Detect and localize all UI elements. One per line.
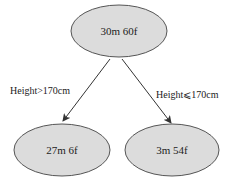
right-child-node: 3m 54f (125, 124, 219, 176)
root-node: 30m 60f (71, 5, 167, 57)
left-child-node: 27m 6f (14, 124, 110, 176)
right-edge-label: Height⩽170cm (156, 89, 219, 100)
decision-tree-diagram: 30m 60f 27m 6f 3m 54f Height>170cm Heigh… (0, 0, 232, 184)
root-node-label: 30m 60f (101, 25, 138, 37)
left-child-label: 27m 6f (46, 144, 78, 156)
left-edge-label: Height>170cm (10, 85, 70, 96)
right-child-label: 3m 54f (156, 144, 188, 156)
